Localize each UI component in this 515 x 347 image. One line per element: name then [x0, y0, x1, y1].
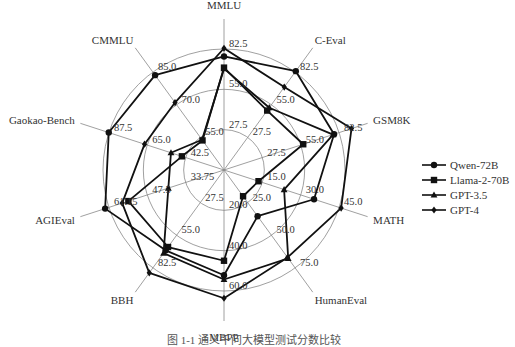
axis-label: AGIEval: [35, 214, 75, 226]
figure-caption: 图 1-1 通义千问大模型测试分数比较: [167, 333, 341, 346]
tick-label: 82.5: [344, 122, 362, 133]
data-point: [102, 205, 108, 211]
tick-label: 30.0: [306, 184, 324, 195]
tick-label: 55.0: [182, 224, 200, 235]
data-point: [179, 153, 185, 159]
tick-label: 25.0: [253, 192, 271, 203]
axis-label: CMMLU: [92, 34, 134, 46]
legend-marker: [431, 177, 437, 183]
axis-label: HumanEval: [315, 294, 368, 306]
legend-label: GPT-4: [450, 204, 479, 216]
tick-label: 82.5: [300, 61, 318, 72]
legend-label: GPT-3.5: [450, 189, 488, 201]
tick-label: 47.5: [152, 184, 170, 195]
tick-label: 55.0: [205, 126, 223, 137]
legend-label: Llama-2-70B: [450, 174, 509, 186]
legend-marker: [431, 162, 437, 168]
tick-label: 27.5: [229, 119, 247, 130]
tick-label: 20.0: [229, 199, 247, 210]
data-point: [165, 244, 171, 250]
tick-label: 45.0: [344, 196, 362, 207]
legend: Qwen-72BLlama-2-70BGPT-3.5GPT-4: [422, 159, 509, 216]
tick-label: 55.0: [276, 94, 294, 105]
legend-item: Llama-2-70B: [422, 174, 509, 186]
tick-label: 27.5: [253, 126, 271, 137]
axis-label: MMLU: [207, 0, 241, 11]
axis-label: MATH: [373, 214, 404, 226]
legend-label: Qwen-72B: [450, 159, 498, 171]
axis-label: Gaokao-Bench: [9, 114, 75, 126]
tick-label: 27.5: [267, 147, 285, 158]
legend-marker: [431, 206, 436, 213]
data-point: [254, 213, 260, 219]
tick-label: 42.5: [191, 147, 209, 158]
tick-label: 40.0: [229, 240, 247, 251]
data-point: [221, 258, 227, 264]
data-point: [221, 295, 226, 302]
tick-label: 55.0: [229, 78, 247, 89]
tick-label: 60.0: [229, 280, 247, 291]
tick-label: 87.5: [114, 122, 132, 133]
data-point: [255, 178, 261, 184]
legend-item: Qwen-72B: [422, 159, 498, 171]
data-point: [311, 196, 317, 202]
data-point: [106, 129, 112, 135]
data-point: [152, 72, 158, 78]
tick-label: 82.5: [229, 38, 247, 49]
axis-label: BBH: [111, 294, 134, 306]
axis-label: C-Eval: [315, 34, 346, 46]
axis-line-4: [224, 170, 313, 292]
tick-label: 33.75: [191, 171, 215, 182]
tick-label: 85.0: [158, 61, 176, 72]
radar-chart: MMLUC-EvalGSM8KMATHHumanEvalMBPPBBHAGIEv…: [0, 0, 515, 347]
data-point: [293, 68, 299, 74]
tick-label: 65.0: [152, 134, 170, 145]
tick-label: 75.0: [300, 257, 318, 268]
tick-label: 50.0: [276, 224, 294, 235]
data-point: [221, 53, 227, 59]
tick-label: 70.0: [182, 94, 200, 105]
tick-label: 55.0: [306, 134, 324, 145]
axis-label: GSM8K: [373, 114, 410, 126]
legend-item: GPT-3.5: [422, 189, 488, 201]
tick-label: 61.15: [114, 196, 138, 207]
tick-label: 27.5: [205, 192, 223, 203]
tick-label: 15.0: [267, 171, 285, 182]
tick-label: 82.5: [158, 257, 176, 268]
legend-item: GPT-4: [422, 204, 479, 216]
